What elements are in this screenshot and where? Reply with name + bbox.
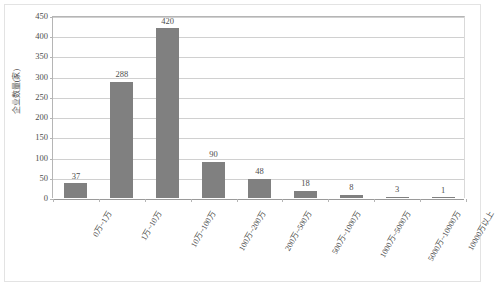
bar-group: 48 <box>237 17 283 198</box>
y-axis-tick-labels: 050100150200250300350400450 <box>22 16 48 198</box>
bar[interactable] <box>386 197 409 198</box>
x-axis-category-label-text: 10万~100万 <box>190 210 217 249</box>
bar-value-label: 37 <box>53 172 99 181</box>
x-axis-category-label-text: 10000万以上 <box>467 210 496 252</box>
plot-area: 37288420904818831 <box>52 16 465 198</box>
y-axis-tick-label: 150 <box>22 133 48 142</box>
x-axis-category-label-text: 200万~500万 <box>284 210 313 252</box>
bar-group: 90 <box>191 17 237 198</box>
bar-value-label: 1 <box>420 186 466 195</box>
x-axis-category-label-text: 0万~1万 <box>92 210 113 239</box>
bar[interactable] <box>64 183 87 198</box>
bar-group: 18 <box>282 17 328 198</box>
bar-value-label: 18 <box>282 179 328 188</box>
x-axis-category-label-text: 5000万~10000万 <box>427 210 462 263</box>
x-axis-category-labels: 0万~1万1万~10万10万~100万100万~200万200万~500万500… <box>52 200 465 270</box>
x-axis-category-label-text: 500万~1000万 <box>332 210 363 256</box>
bar-group: 37 <box>53 17 99 198</box>
x-axis-category-label-text: 1万~10万 <box>140 210 163 242</box>
bar[interactable] <box>248 179 271 198</box>
bar-group: 3 <box>374 17 420 198</box>
bar-value-label: 48 <box>237 167 283 176</box>
y-axis-tick-label: 0 <box>22 194 48 203</box>
bar-group: 288 <box>99 17 145 198</box>
bar-value-label: 3 <box>374 185 420 194</box>
y-axis-title: 企业数量(家) <box>10 44 21 140</box>
x-axis-category-label-text: 100万~200万 <box>238 210 267 252</box>
y-axis-tick-label: 100 <box>22 153 48 162</box>
bars-layer: 37288420904818831 <box>53 17 464 198</box>
bar[interactable] <box>294 191 317 198</box>
bar[interactable] <box>432 197 455 198</box>
y-axis-tick-label: 250 <box>22 93 48 102</box>
y-axis-tick-label: 400 <box>22 32 48 41</box>
y-axis-tick-label: 300 <box>22 72 48 81</box>
bar[interactable] <box>110 82 133 198</box>
bar-value-label: 288 <box>99 70 145 79</box>
bar[interactable] <box>340 195 363 198</box>
bar-value-label: 8 <box>328 183 374 192</box>
bar[interactable] <box>156 28 179 198</box>
bar-group: 1 <box>420 17 466 198</box>
x-axis-category-label-text: 1000万~5000万 <box>379 210 412 259</box>
bar-group: 8 <box>328 17 374 198</box>
bar-value-label: 90 <box>191 150 237 159</box>
bar-value-label: 420 <box>145 17 191 26</box>
y-axis-tick-label: 450 <box>22 12 48 21</box>
bar-group: 420 <box>145 17 191 198</box>
x-axis-tickmark <box>466 199 467 202</box>
bar[interactable] <box>202 162 225 198</box>
y-axis-tick-label: 50 <box>22 174 48 183</box>
y-axis-tick-label: 350 <box>22 52 48 61</box>
y-axis-tick-label: 200 <box>22 113 48 122</box>
